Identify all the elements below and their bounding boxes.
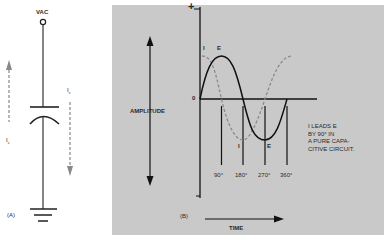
time-arrow-icon bbox=[205, 216, 284, 223]
current-label-left: Ic bbox=[6, 137, 10, 145]
i-label-bottom: I bbox=[238, 143, 240, 149]
current-label-right: Ic bbox=[67, 87, 71, 95]
plus-label: + bbox=[188, 0, 194, 12]
current-arrow-down-icon bbox=[67, 102, 73, 176]
lead-annotation: I LEADS E BY 90° IN A PURE CAPA- CITIVE … bbox=[308, 123, 354, 153]
vac-label: VAC bbox=[36, 9, 48, 15]
degree-ticks bbox=[222, 106, 288, 165]
tick-label-180: 180° bbox=[235, 172, 247, 178]
tick-label-360: 360° bbox=[280, 172, 292, 178]
e-label-bottom: E bbox=[267, 143, 271, 149]
zero-label: 0 bbox=[192, 95, 195, 101]
current-label-right-sub: c bbox=[69, 90, 71, 95]
tick-label-270: 270° bbox=[258, 172, 270, 178]
tick-label-90: 90° bbox=[214, 172, 223, 178]
capacitor-plate-curved bbox=[30, 117, 59, 125]
e-label-top: E bbox=[217, 45, 221, 51]
current-label-left-sub: c bbox=[8, 140, 10, 145]
capacitor-circuit bbox=[6, 19, 73, 221]
current-arrow-up-icon bbox=[6, 60, 12, 122]
amplitude-label: AMPLITUDE bbox=[130, 108, 165, 114]
i-label-top: I bbox=[203, 45, 205, 51]
panel-b-label: (B) bbox=[180, 213, 188, 219]
ground-icon bbox=[30, 209, 57, 221]
waveform-graph bbox=[147, 7, 318, 223]
panel-a-label: (A) bbox=[7, 212, 15, 218]
time-label: TIME bbox=[229, 225, 243, 231]
source-terminal-icon bbox=[40, 19, 45, 24]
diagram-canvas bbox=[0, 0, 384, 240]
